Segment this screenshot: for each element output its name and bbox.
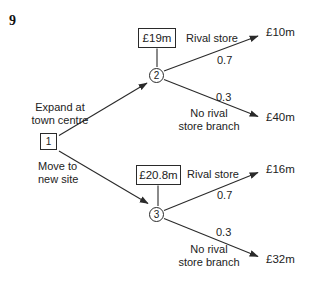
chance-node-3: 3 <box>149 207 164 222</box>
decision-tree-diagram: 9 1 Expand at town centre Move to new si… <box>0 0 313 281</box>
chance-node-2-label: 2 <box>154 70 160 81</box>
branch-label-move: Move to new site <box>38 160 78 185</box>
payoff-node2-norival: £40m <box>266 111 295 124</box>
question-number: 9 <box>9 13 16 29</box>
outcome-label-node3-rival: Rival store <box>187 168 239 181</box>
expected-value-node-2: £19m <box>138 28 176 48</box>
decision-node-1-label: 1 <box>46 136 52 147</box>
branch-label-expand: Expand at town centre <box>28 101 92 126</box>
payoff-node3-rival: £16m <box>266 163 295 176</box>
chance-node-2: 2 <box>149 68 164 83</box>
expected-value-node-3: £20.8m <box>136 165 181 185</box>
probability-node3-rival: 0.7 <box>217 189 232 202</box>
probability-node2-norival: 0.3 <box>216 91 231 104</box>
chance-node-3-label: 3 <box>154 209 160 220</box>
outcome-label-node2-rival: Rival store <box>186 32 238 45</box>
probability-node2-rival: 0.7 <box>217 54 232 67</box>
payoff-node2-rival: £10m <box>266 26 295 39</box>
outcome-label-node3-norival: No rival store branch <box>176 243 242 268</box>
payoff-node3-norival: £32m <box>266 253 295 266</box>
decision-node-1: 1 <box>40 133 57 150</box>
probability-node3-norival: 0.3 <box>216 226 231 239</box>
outcome-label-node2-norival: No rival store branch <box>176 107 242 132</box>
